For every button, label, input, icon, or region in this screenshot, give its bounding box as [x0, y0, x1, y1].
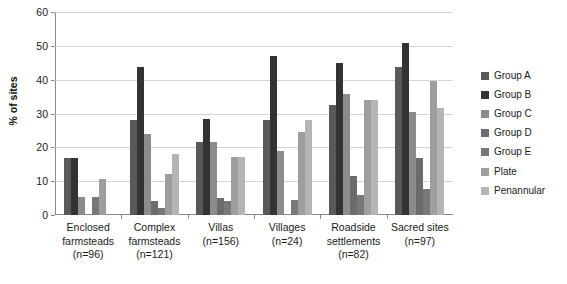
legend-swatch-icon	[481, 187, 489, 195]
legend-swatch-icon	[481, 72, 489, 80]
x-axis-label-line: (n=24)	[254, 235, 320, 249]
legend-item[interactable]: Group A	[481, 66, 567, 85]
bar	[238, 157, 245, 215]
x-tick-mark	[320, 215, 321, 219]
x-axis-label-line: Sacred sites	[387, 221, 453, 235]
bar	[416, 158, 423, 215]
bar	[165, 174, 172, 215]
bar-group	[387, 12, 453, 215]
bar	[263, 120, 270, 215]
bar	[305, 120, 312, 215]
x-axis-label-line: (n=121)	[121, 248, 187, 262]
bar	[203, 119, 210, 215]
x-axis-label-line: Enclosed	[55, 221, 121, 235]
x-axis-label-line: Villages	[254, 221, 320, 235]
bar	[92, 197, 99, 215]
legend-label: Group C	[494, 109, 532, 119]
x-axis-label-line: Complex	[121, 221, 187, 235]
legend-item[interactable]: Group C	[481, 104, 567, 123]
chart-figure: % of sites 0102030405060 Enclosedfarmste…	[0, 0, 567, 284]
legend-label: Group E	[494, 147, 531, 157]
bar-group	[188, 12, 254, 215]
x-axis-label: Sacred sites(n=97)	[387, 221, 453, 262]
x-axis-label: Enclosedfarmsteads(n=96)	[55, 221, 121, 262]
x-tick-mark	[188, 215, 189, 219]
bar-group	[121, 12, 187, 215]
x-axis-label: Complexfarmsteads(n=121)	[121, 221, 187, 262]
bar	[277, 151, 284, 215]
bar	[224, 201, 231, 215]
legend-swatch-icon	[481, 129, 489, 137]
y-tick-label: 0	[42, 210, 48, 221]
legend-label: Plate	[494, 167, 517, 177]
legend-swatch-icon	[481, 168, 489, 176]
legend-item[interactable]: Group D	[481, 124, 567, 143]
legend-swatch-icon	[481, 91, 489, 99]
bar	[137, 67, 144, 215]
x-axis-label-line: farmsteads	[121, 235, 187, 249]
legend-label: Group B	[494, 90, 531, 100]
bar	[231, 157, 238, 215]
bar	[158, 208, 165, 215]
bar	[395, 67, 402, 215]
legend-item[interactable]: Group B	[481, 85, 567, 104]
bar	[210, 142, 217, 215]
x-tick-mark	[121, 215, 122, 219]
x-tick-mark	[254, 215, 255, 219]
legend-item[interactable]: Group E	[481, 143, 567, 162]
legend-swatch-icon	[481, 148, 489, 156]
legend-label: Penannular	[494, 186, 545, 196]
bar	[343, 94, 350, 215]
x-axis-labels: Enclosedfarmsteads(n=96)Complexfarmstead…	[55, 221, 453, 262]
bar	[423, 189, 430, 215]
bar	[64, 158, 71, 215]
bar	[78, 197, 85, 215]
x-axis-label: Villages(n=24)	[254, 221, 320, 262]
figure-caption	[0, 272, 567, 284]
legend-item[interactable]: Plate	[481, 162, 567, 181]
bar-group	[55, 12, 121, 215]
bar	[298, 132, 305, 215]
y-tick-label: 10	[36, 176, 48, 187]
bar	[196, 142, 203, 215]
bar	[402, 43, 409, 215]
bar	[172, 154, 179, 215]
bar	[217, 198, 224, 215]
legend-label: Group A	[494, 71, 531, 81]
x-axis-label-line: (n=97)	[387, 235, 453, 249]
x-axis-label-line: settlements	[320, 235, 386, 249]
x-axis-label-line: (n=82)	[320, 248, 386, 262]
x-axis-label: Villas(n=156)	[188, 221, 254, 262]
x-axis-label-line: farmsteads	[55, 235, 121, 249]
bar	[71, 158, 78, 215]
bar	[99, 179, 106, 215]
x-axis-label-line: (n=156)	[188, 235, 254, 249]
bar	[144, 134, 151, 215]
x-axis-label-line: Villas	[188, 221, 254, 235]
x-axis-label-line: Roadside	[320, 221, 386, 235]
bar	[437, 108, 444, 215]
y-tick-label: 60	[36, 7, 48, 18]
bar	[291, 200, 298, 215]
y-tick-label: 50	[36, 41, 48, 52]
bar	[336, 63, 343, 215]
bar	[151, 201, 158, 215]
y-tick-label: 30	[36, 108, 48, 119]
bar-group	[320, 12, 386, 215]
bar	[329, 105, 336, 215]
bar	[357, 195, 364, 215]
y-tick-label: 40	[36, 74, 48, 85]
bar	[364, 100, 371, 215]
y-tick-mark	[51, 215, 55, 216]
bar	[350, 176, 357, 215]
chart-legend: Group AGroup BGroup CGroup DGroup EPlate…	[481, 66, 567, 200]
legend-item[interactable]: Penannular	[481, 181, 567, 200]
legend-swatch-icon	[481, 110, 489, 118]
x-tick-mark	[387, 215, 388, 219]
plot-area: 0102030405060	[55, 12, 453, 215]
bar	[371, 100, 378, 215]
y-tick-label: 20	[36, 142, 48, 153]
bar-group	[254, 12, 320, 215]
bar	[130, 120, 137, 215]
bar	[270, 56, 277, 215]
